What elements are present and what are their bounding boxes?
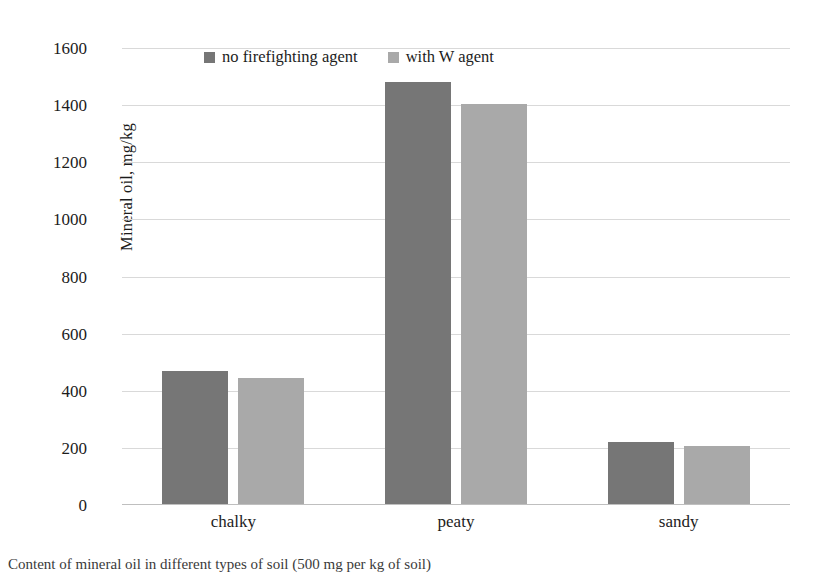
bar-sandy-series-0 [608,442,674,505]
plot-area: 02004006008001000120014001600 [122,48,790,505]
bar-peaty-series-0 [385,82,451,505]
y-axis-tick-label: 200 [0,439,87,456]
y-axis-tick-label: 1000 [0,211,87,228]
bar-chart-figure: Mineral oil, mg/kg no firefighting agent… [0,0,815,573]
gridline [122,105,790,106]
x-axis-tick-label-chalky: chalky [123,512,343,532]
y-axis-tick-label: 0 [0,497,87,514]
gridline [122,48,790,49]
gridline [122,162,790,163]
gridline [122,334,790,335]
y-axis-tick-label: 600 [0,325,87,342]
x-axis-tick-label-sandy: sandy [569,512,789,532]
gridline [122,219,790,220]
x-axis-line [122,504,790,505]
y-axis-tick-label: 800 [0,268,87,285]
y-axis-tick-label: 1200 [0,154,87,171]
y-axis-tick-label: 1400 [0,97,87,114]
y-axis-tick-label: 1600 [0,40,87,57]
bar-chalky-series-0 [162,371,228,505]
x-axis-tick-label-peaty: peaty [346,512,566,532]
gridline [122,277,790,278]
bar-chalky-series-1 [238,378,304,505]
bar-peaty-series-1 [461,104,527,505]
y-axis-tick-label: 400 [0,382,87,399]
figure-caption: Content of mineral oil in different type… [8,556,808,573]
bar-sandy-series-1 [684,446,750,505]
